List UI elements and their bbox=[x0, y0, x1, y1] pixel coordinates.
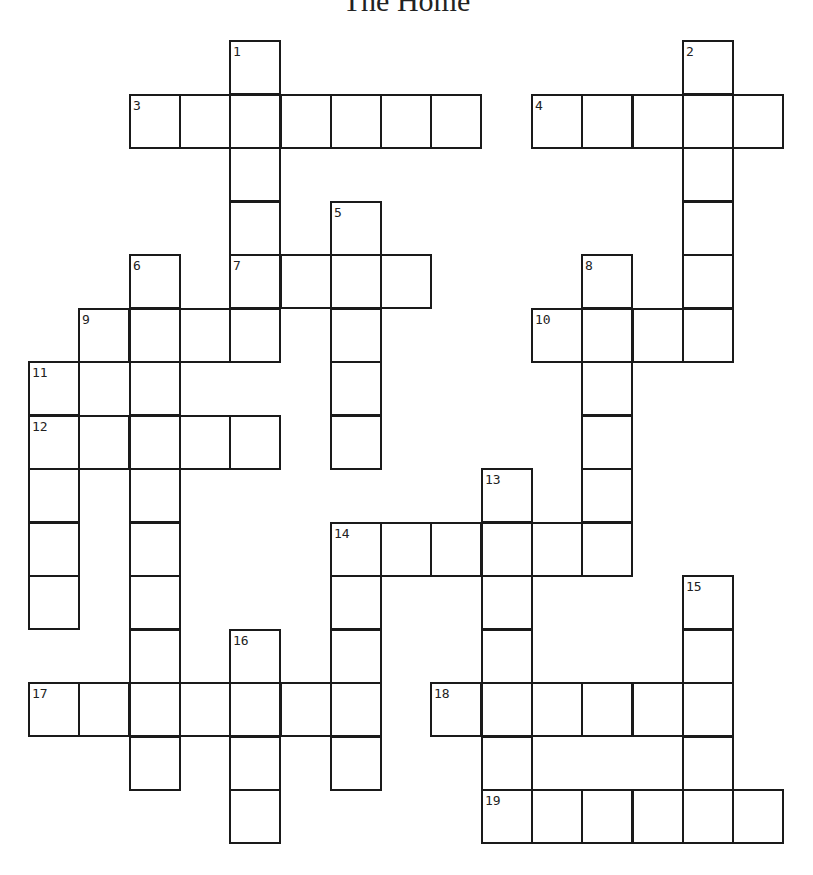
grid-cell[interactable] bbox=[229, 201, 281, 256]
grid-cell[interactable] bbox=[28, 575, 80, 630]
grid-cell[interactable] bbox=[632, 308, 684, 363]
grid-cell[interactable] bbox=[330, 415, 382, 470]
grid-cell[interactable] bbox=[78, 682, 130, 737]
grid-cell[interactable]: 2 bbox=[682, 40, 734, 95]
grid-cell[interactable] bbox=[581, 682, 633, 737]
grid-cell[interactable] bbox=[682, 147, 734, 202]
grid-cell[interactable] bbox=[531, 522, 583, 577]
grid-cell[interactable] bbox=[430, 522, 482, 577]
grid-cell[interactable] bbox=[632, 789, 684, 844]
grid-cell[interactable] bbox=[330, 682, 382, 737]
grid-cell[interactable] bbox=[129, 361, 181, 416]
grid-cell[interactable] bbox=[732, 789, 784, 844]
grid-cell[interactable] bbox=[682, 254, 734, 309]
grid-cell[interactable]: 6 bbox=[129, 254, 181, 309]
grid-cell[interactable] bbox=[682, 201, 734, 256]
grid-cell[interactable] bbox=[330, 736, 382, 791]
grid-cell[interactable] bbox=[481, 736, 533, 791]
grid-cell[interactable] bbox=[28, 522, 80, 577]
clue-number: 7 bbox=[233, 259, 241, 272]
grid-cell[interactable] bbox=[581, 468, 633, 523]
grid-cell[interactable]: 18 bbox=[430, 682, 482, 737]
grid-cell[interactable] bbox=[581, 308, 633, 363]
grid-cell[interactable]: 14 bbox=[330, 522, 382, 577]
grid-cell[interactable] bbox=[78, 415, 130, 470]
grid-cell[interactable]: 17 bbox=[28, 682, 80, 737]
grid-cell[interactable] bbox=[28, 468, 80, 523]
grid-cell[interactable] bbox=[229, 789, 281, 844]
grid-cell[interactable]: 16 bbox=[229, 629, 281, 684]
grid-cell[interactable]: 15 bbox=[682, 575, 734, 630]
grid-cell[interactable] bbox=[481, 682, 533, 737]
grid-cell[interactable]: 11 bbox=[28, 361, 80, 416]
clue-number: 1 bbox=[233, 45, 241, 58]
grid-cell[interactable]: 5 bbox=[330, 201, 382, 256]
grid-cell[interactable] bbox=[129, 629, 181, 684]
grid-cell[interactable]: 7 bbox=[229, 254, 281, 309]
grid-cell[interactable]: 13 bbox=[481, 468, 533, 523]
grid-cell[interactable] bbox=[179, 94, 231, 149]
grid-cell[interactable] bbox=[129, 522, 181, 577]
grid-cell[interactable] bbox=[330, 361, 382, 416]
grid-cell[interactable]: 4 bbox=[531, 94, 583, 149]
grid-cell[interactable] bbox=[732, 94, 784, 149]
grid-cell[interactable] bbox=[380, 254, 432, 309]
grid-cell[interactable] bbox=[330, 575, 382, 630]
clue-number: 5 bbox=[334, 206, 342, 219]
grid-cell[interactable] bbox=[380, 94, 432, 149]
grid-cell[interactable] bbox=[129, 682, 181, 737]
grid-cell[interactable] bbox=[229, 308, 281, 363]
grid-cell[interactable] bbox=[229, 736, 281, 791]
grid-cell[interactable] bbox=[229, 147, 281, 202]
grid-cell[interactable]: 10 bbox=[531, 308, 583, 363]
grid-cell[interactable] bbox=[129, 415, 181, 470]
clue-number: 2 bbox=[686, 45, 694, 58]
grid-cell[interactable] bbox=[129, 468, 181, 523]
grid-cell[interactable] bbox=[179, 415, 231, 470]
grid-cell[interactable] bbox=[229, 682, 281, 737]
grid-cell[interactable] bbox=[581, 415, 633, 470]
grid-cell[interactable] bbox=[280, 94, 332, 149]
clue-number: 11 bbox=[32, 366, 48, 379]
grid-cell[interactable] bbox=[179, 682, 231, 737]
grid-cell[interactable] bbox=[330, 308, 382, 363]
grid-cell[interactable] bbox=[129, 575, 181, 630]
grid-cell[interactable] bbox=[229, 94, 281, 149]
grid-cell[interactable] bbox=[129, 308, 181, 363]
grid-cell[interactable] bbox=[330, 629, 382, 684]
grid-cell[interactable] bbox=[682, 629, 734, 684]
grid-cell[interactable] bbox=[280, 682, 332, 737]
grid-cell[interactable] bbox=[481, 575, 533, 630]
grid-cell[interactable] bbox=[632, 682, 684, 737]
grid-cell[interactable] bbox=[330, 94, 382, 149]
grid-cell[interactable] bbox=[531, 789, 583, 844]
grid-cell[interactable]: 3 bbox=[129, 94, 181, 149]
grid-cell[interactable] bbox=[229, 415, 281, 470]
grid-cell[interactable] bbox=[581, 789, 633, 844]
grid-cell[interactable] bbox=[632, 94, 684, 149]
grid-cell[interactable] bbox=[682, 789, 734, 844]
grid-cell[interactable] bbox=[481, 522, 533, 577]
grid-cell[interactable] bbox=[682, 308, 734, 363]
grid-cell[interactable]: 12 bbox=[28, 415, 80, 470]
grid-cell[interactable]: 1 bbox=[229, 40, 281, 95]
grid-cell[interactable] bbox=[330, 254, 382, 309]
grid-cell[interactable]: 19 bbox=[481, 789, 533, 844]
clue-number: 17 bbox=[32, 687, 48, 700]
grid-cell[interactable] bbox=[581, 94, 633, 149]
grid-cell[interactable] bbox=[682, 736, 734, 791]
grid-cell[interactable]: 9 bbox=[78, 308, 130, 363]
grid-cell[interactable] bbox=[280, 254, 332, 309]
grid-cell[interactable]: 8 bbox=[581, 254, 633, 309]
grid-cell[interactable] bbox=[179, 308, 231, 363]
grid-cell[interactable] bbox=[581, 361, 633, 416]
grid-cell[interactable] bbox=[481, 629, 533, 684]
grid-cell[interactable] bbox=[531, 682, 583, 737]
grid-cell[interactable] bbox=[430, 94, 482, 149]
grid-cell[interactable] bbox=[581, 522, 633, 577]
grid-cell[interactable] bbox=[682, 682, 734, 737]
grid-cell[interactable] bbox=[380, 522, 432, 577]
grid-cell[interactable] bbox=[129, 736, 181, 791]
clue-number: 13 bbox=[485, 473, 501, 486]
grid-cell[interactable] bbox=[682, 94, 734, 149]
